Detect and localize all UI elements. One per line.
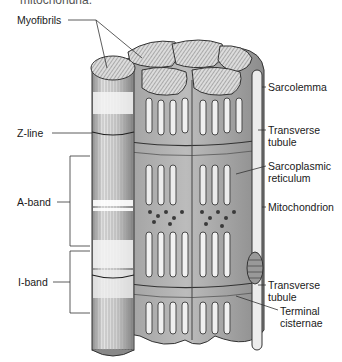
label-terminal-cisternae-line1: Terminal: [280, 305, 323, 317]
label-transverse-tubule-1-line2: tubule: [268, 136, 320, 148]
label-transverse-tubule-1-line1: Transverse: [268, 124, 320, 136]
label-i-band: I-band: [18, 276, 48, 288]
label-z-line: Z-line: [17, 127, 43, 139]
mitochondrion-shape: [247, 252, 263, 284]
label-sarcoplasmic-reticulum-line2: reticulum: [268, 172, 331, 184]
label-a-band: A-band: [17, 196, 51, 208]
label-transverse-tubule-1: Transverse tubule: [268, 124, 320, 148]
label-terminal-cisternae: Terminal cisternae: [280, 305, 323, 329]
myofibril-cylinder: [91, 56, 135, 356]
label-myofibrils: Myofibrils: [17, 14, 61, 26]
label-sarcoplasmic-reticulum-line1: Sarcoplasmic: [268, 160, 331, 172]
label-sarcolemma: Sarcolemma: [268, 81, 327, 93]
label-terminal-cisternae-line2: cisternae: [280, 317, 323, 329]
label-mitochondrion: Mitochondrion: [268, 201, 334, 213]
label-sarcoplasmic-reticulum: Sarcoplasmic reticulum: [268, 160, 331, 184]
label-transverse-tubule-2: Transverse tubule: [268, 279, 320, 303]
label-transverse-tubule-2-line1: Transverse: [268, 279, 320, 291]
label-transverse-tubule-2-line2: tubule: [268, 291, 320, 303]
